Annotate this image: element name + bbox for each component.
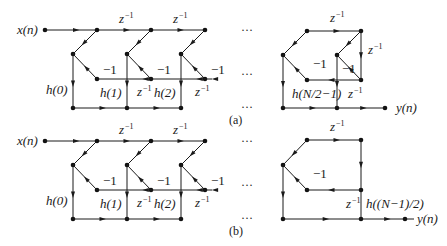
bottom-arrow-icon xyxy=(212,77,218,81)
delay-z: z xyxy=(367,42,373,57)
ellipsis: ··· xyxy=(241,178,253,192)
delay-z: z xyxy=(194,195,200,210)
delay-exponent: −1 xyxy=(354,86,363,95)
bottom-arrow-icon xyxy=(142,77,148,81)
negate-label: −1 xyxy=(313,56,327,71)
right-edge-arrow-icon xyxy=(359,162,363,168)
bottom-delay-label: z−1 xyxy=(345,196,361,211)
coef-edge-arrow-icon xyxy=(125,81,129,87)
input-edge-arrow-icon xyxy=(73,139,79,143)
delay-exponent: −1 xyxy=(352,196,361,205)
delay-z: z xyxy=(345,196,351,211)
sum-edge-arrow-icon xyxy=(154,217,160,221)
ellipsis: ··· xyxy=(241,67,253,81)
output-label-a: y(n) xyxy=(394,100,417,115)
top-delay-edge-arrow-icon xyxy=(124,139,130,143)
delay-exponent: −1 xyxy=(143,84,152,93)
delay-exponent: −1 xyxy=(143,195,152,204)
input-label-b: x(n) xyxy=(16,133,38,148)
bottom-arrow-icon xyxy=(196,188,202,192)
delay-z: z xyxy=(194,84,200,99)
coef-label: h(2) xyxy=(154,196,176,211)
bottom-delay-label: z−1 xyxy=(347,86,363,101)
negate-label: −1 xyxy=(313,166,327,181)
coef-edge-arrow-icon xyxy=(71,81,75,87)
top-delay-edge-arrow-icon xyxy=(178,28,184,32)
sum-edge-arrow-icon xyxy=(100,217,106,221)
right-delay-label: z−1 xyxy=(367,42,383,57)
negate-label: −1 xyxy=(103,173,117,188)
delay-exponent: −1 xyxy=(125,122,134,131)
delay-z: z xyxy=(329,10,335,25)
top-delay-label: z−1 xyxy=(329,10,345,25)
bottom-delay-edge-arrow-icon xyxy=(328,188,334,192)
top-delay-edge-arrow-icon xyxy=(334,138,340,142)
negate-label: −1 xyxy=(211,62,225,77)
delay-z: z xyxy=(136,84,142,99)
delay-exponent: −1 xyxy=(201,195,210,204)
coef-label: h((N−1)/2) xyxy=(366,196,424,211)
coef-edge-arrow-icon xyxy=(179,192,183,198)
delay-z: z xyxy=(118,11,124,26)
top-delay-label: z−1 xyxy=(329,119,345,134)
delay-exponent: −1 xyxy=(179,11,188,20)
right-delay-edge-arrow-icon xyxy=(359,52,363,58)
delay-exponent: −1 xyxy=(179,122,188,131)
sum-edge-arrow-icon xyxy=(100,106,106,110)
caption-a: (a) xyxy=(229,113,242,127)
bottom-delay-label: z−1 xyxy=(136,195,152,210)
delay-exponent: −1 xyxy=(336,119,345,128)
bottom-delay-label: z−1 xyxy=(194,195,210,210)
sum-edge-arrow-icon xyxy=(323,217,329,221)
top-delay-label: z−1 xyxy=(172,122,188,137)
caption-b: (b) xyxy=(229,224,243,238)
coef-label: h(1) xyxy=(100,196,122,211)
top-delay-edge-arrow-icon xyxy=(178,139,184,143)
delay-z: z xyxy=(118,122,124,137)
top-delay-edge-arrow-icon xyxy=(124,28,130,32)
top-delay-label: z−1 xyxy=(118,11,134,26)
coef-label: h(2) xyxy=(154,85,176,100)
output-edge-arrow-icon xyxy=(360,106,366,110)
coef-edge-arrow-icon xyxy=(281,192,285,198)
bottom-arrow-icon xyxy=(142,188,148,192)
delay-z: z xyxy=(347,86,353,101)
top-delay-edge-arrow-icon xyxy=(334,29,340,33)
delay-z: z xyxy=(172,122,178,137)
bottom-arrow-icon xyxy=(196,77,202,81)
top-delay-label: z−1 xyxy=(172,11,188,26)
coef-label: h(1) xyxy=(100,85,122,100)
delay-exponent: −1 xyxy=(374,42,383,51)
negate-label: −1 xyxy=(211,173,225,188)
delay-z: z xyxy=(136,195,142,210)
output-label-b: y(n) xyxy=(415,211,438,226)
coef-label: h(0) xyxy=(46,193,68,208)
delay-exponent: −1 xyxy=(125,11,134,20)
delay-z: z xyxy=(172,11,178,26)
coef-edge-arrow-icon xyxy=(71,192,75,198)
negate-label: −1 xyxy=(103,62,117,77)
negate-label: −1 xyxy=(157,173,171,188)
sum-edge-arrow-icon xyxy=(310,106,316,110)
ellipsis: ··· xyxy=(241,100,253,114)
bottom-delay-label: z−1 xyxy=(136,84,152,99)
delay-exponent: −1 xyxy=(336,10,345,19)
output-edge-arrow-icon xyxy=(384,217,390,221)
ellipsis: ··· xyxy=(241,211,253,225)
signal-flow-diagram: x(n)z−1z−1−1h(0)−1h(1)−1h(2)z−1z−1······… xyxy=(0,0,447,246)
coef-label: h(0) xyxy=(46,82,68,97)
bottom-arrow-icon xyxy=(212,188,218,192)
delay-z: z xyxy=(329,119,335,134)
coef-label: h(N/2−1) xyxy=(292,86,341,101)
bottom-delay-label: z−1 xyxy=(194,84,210,99)
coef-edge-arrow-icon xyxy=(281,81,285,87)
negate-label: −1 xyxy=(157,62,171,77)
coef-edge-arrow-icon xyxy=(179,81,183,87)
bottom-delay-edge-arrow-icon xyxy=(328,78,334,82)
coef-edge-arrow-icon xyxy=(125,192,129,198)
input-label-a: x(n) xyxy=(16,22,38,37)
input-edge-arrow-icon xyxy=(73,28,79,32)
sum-edge-arrow-icon xyxy=(154,106,160,110)
top-delay-label: z−1 xyxy=(118,122,134,137)
negate-label: −1 xyxy=(342,61,356,76)
